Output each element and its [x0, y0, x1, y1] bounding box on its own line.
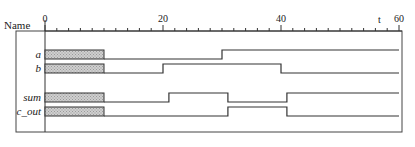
tick-label: 0 [43, 13, 48, 24]
signal-label: sum [23, 91, 41, 103]
waveform [104, 107, 399, 116]
undefined-value-region [45, 93, 104, 102]
time-axis-label: t [378, 14, 381, 25]
tick-label: 40 [276, 13, 286, 24]
waveform [104, 64, 399, 73]
undefined-value-region [45, 64, 104, 73]
time-axis-tick-labels: 0204060 [43, 13, 405, 24]
diagram-frame [16, 31, 402, 132]
waveform [104, 50, 399, 59]
undefined-value-region [45, 107, 104, 116]
name-column-header: Name [4, 19, 30, 31]
signal-label: c_out [17, 105, 42, 117]
signal-row-b: b [36, 62, 400, 74]
tick-label: 20 [158, 13, 168, 24]
signal-row-a: a [36, 48, 400, 60]
signal-rows: absumc_out [17, 48, 399, 117]
signal-label: a [36, 48, 42, 60]
time-axis-ticks [45, 25, 399, 31]
signal-row-sum: sum [23, 91, 399, 103]
undefined-value-region [45, 50, 104, 59]
waveform [104, 93, 399, 102]
tick-label: 60 [394, 13, 404, 24]
signal-label: b [36, 62, 42, 74]
signal-row-c_out: c_out [17, 105, 399, 117]
timing-diagram: Name t 0204060 absumc_out [0, 0, 415, 147]
